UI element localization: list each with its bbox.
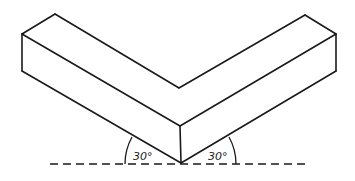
left-arm <box>22 14 181 163</box>
bend-vertical-edge <box>180 126 181 163</box>
bent-bar-isometric-diagram: 30° 30° <box>0 0 355 181</box>
right-angle-arc <box>229 137 236 164</box>
left-angle-label: 30° <box>133 150 153 163</box>
left-angle-arc <box>125 137 132 164</box>
right-angle-label: 30° <box>208 150 228 163</box>
right-arm <box>179 15 336 163</box>
